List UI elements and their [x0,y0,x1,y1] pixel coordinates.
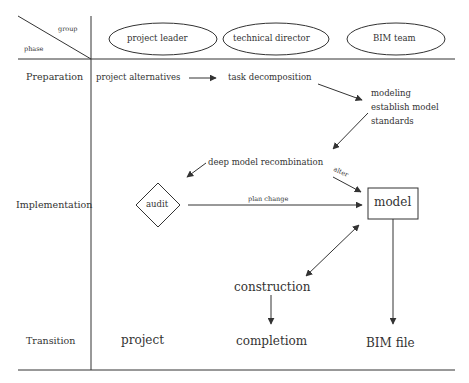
node-task-decomposition: task decomposition [228,72,311,82]
group-bim-team: BIM team [373,33,416,43]
group-project-leader: project leader [127,33,188,43]
edge-label-plan-change: plan change [248,195,288,203]
node-completiom: completiom [236,334,307,348]
node-standards: standards [371,116,414,126]
node-bim-file: BIM file [366,336,415,350]
phase-preparation: Preparation [26,71,83,82]
corner-phase-label: phase [24,45,43,53]
phase-transition: Transition [26,335,75,346]
node-model: model [374,195,411,209]
phase-implementation: Implementation [16,199,92,210]
node-establish-model: establish model [371,102,439,112]
node-construction: construction [234,280,310,294]
node-audit: audit [146,199,168,209]
node-deep-model-recombination: deep model recombination [208,157,323,167]
diagram-lines [0,0,469,383]
node-modeling: modeling [371,88,411,98]
corner-group-label: group [58,25,78,33]
group-technical-director: technical director [233,33,310,43]
node-project-alternatives: project alternatives [96,72,180,82]
node-project: project [121,333,164,347]
